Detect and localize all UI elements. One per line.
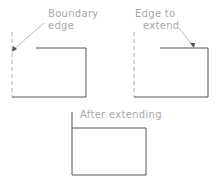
panel-after-extending: After extending	[72, 109, 162, 175]
leader-line	[13, 23, 44, 50]
panel-boundary-edge: Boundary edge	[12, 8, 99, 97]
arrowhead-icon	[190, 43, 195, 48]
closed-shape	[72, 128, 146, 175]
label-after-extending: After extending	[80, 109, 162, 120]
label-boundary: Boundary	[48, 8, 99, 19]
panel-edge-to-extend: Edge to extend	[134, 8, 208, 97]
label-edge: edge	[48, 20, 74, 31]
open-shape	[134, 48, 208, 97]
open-shape	[12, 48, 86, 97]
extend-diagram: Boundary edge Edge to extend After exten…	[0, 0, 218, 184]
label-extend: extend	[143, 20, 179, 31]
label-edge-to: Edge to	[135, 8, 175, 19]
